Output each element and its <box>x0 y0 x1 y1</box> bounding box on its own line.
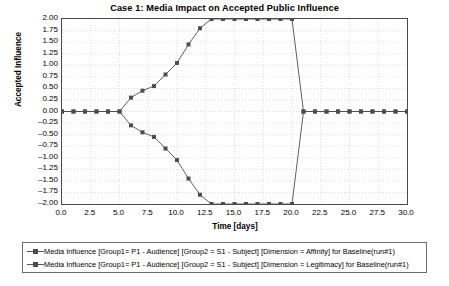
data-point-marker <box>313 110 317 114</box>
legend-item[interactable]: Media Influence [Group1= P1 - Audience] … <box>27 245 422 258</box>
y-axis-tick-label: –1.25 <box>4 164 58 172</box>
y-axis-tick-label: –1.50 <box>4 176 58 184</box>
data-point-marker <box>152 84 156 88</box>
y-axis-tick-label: –0.75 <box>4 141 58 149</box>
y-axis-tick-label: –1.00 <box>4 153 58 161</box>
data-point-marker <box>256 19 260 21</box>
y-axis-tick-label: 0.75 <box>4 72 58 80</box>
data-point-marker <box>187 42 191 46</box>
data-point-marker <box>118 110 122 114</box>
data-point-marker <box>279 19 283 21</box>
y-axis-ticks: 2.001.751.501.251.000.750.500.250.00–0.2… <box>0 18 58 205</box>
data-point-marker <box>233 202 237 204</box>
data-point-marker <box>279 202 283 204</box>
data-point-marker <box>210 19 214 21</box>
data-point-marker <box>175 61 179 65</box>
legend-item-label: Media Influence [Group1= P1 - Audience] … <box>44 258 409 271</box>
chart-legend: Media Influence [Group1= P1 - Audience] … <box>22 242 427 273</box>
data-point-marker <box>129 96 133 100</box>
data-point-marker <box>233 19 237 21</box>
data-point-marker <box>95 110 99 114</box>
data-point-marker <box>348 110 352 114</box>
data-point-marker <box>382 110 386 114</box>
data-point-marker <box>106 110 110 114</box>
data-point-marker <box>221 19 225 21</box>
data-point-marker <box>187 177 191 181</box>
data-point-marker <box>302 110 306 114</box>
data-point-marker <box>129 123 133 127</box>
data-point-marker <box>290 19 294 21</box>
data-point-marker <box>164 147 168 151</box>
data-point-marker <box>256 202 260 204</box>
y-axis-tick-label: 0.50 <box>4 83 58 91</box>
chart-figure: Case 1: Media Impact on Accepted Public … <box>0 0 449 286</box>
y-axis-tick-label: –0.25 <box>4 118 58 126</box>
data-point-marker <box>141 89 145 93</box>
data-point-marker <box>244 19 248 21</box>
y-axis-tick-label: –0.50 <box>4 130 58 138</box>
data-point-marker <box>141 130 145 134</box>
data-point-marker <box>152 135 156 139</box>
data-point-marker <box>394 110 398 114</box>
data-point-marker <box>290 202 294 204</box>
y-axis-tick-label: 1.75 <box>4 26 58 34</box>
legend-marker-icon <box>27 258 44 271</box>
data-point-marker <box>267 202 271 204</box>
y-axis-tick-label: –2.00 <box>4 199 58 207</box>
chart-title: Case 1: Media Impact on Accepted Public … <box>0 3 449 13</box>
legend-marker-icon <box>27 245 44 258</box>
y-axis-tick-label: 1.00 <box>4 60 58 68</box>
data-point-marker <box>198 26 202 30</box>
data-point-marker <box>221 202 225 204</box>
data-point-marker <box>371 110 375 114</box>
y-axis-tick-label: 2.00 <box>4 14 58 22</box>
y-axis-tick-label: 0.25 <box>4 95 58 103</box>
y-axis-tick-label: –1.75 <box>4 187 58 195</box>
data-point-marker <box>164 73 168 77</box>
legend-item-label: Media Influence [Group1= P1 - Audience] … <box>44 245 395 258</box>
data-point-marker <box>336 110 340 114</box>
legend-item[interactable]: Media Influence [Group1= P1 - Audience] … <box>27 258 422 271</box>
data-point-marker <box>175 158 179 162</box>
x-axis-tick-label: 30.0 <box>386 209 426 217</box>
x-axis-label: Time [days] <box>61 222 409 231</box>
data-point-marker <box>405 110 407 114</box>
y-axis-tick-label: 0.00 <box>4 107 58 115</box>
data-point-marker <box>72 110 76 114</box>
data-point-marker <box>198 193 202 197</box>
x-axis-ticks: 0.02.55.07.510.012.515.017.520.022.525.0… <box>61 209 408 221</box>
data-point-marker <box>83 110 87 114</box>
data-point-marker <box>325 110 329 114</box>
data-point-marker <box>210 202 214 204</box>
y-axis-tick-label: 1.25 <box>4 49 58 57</box>
plot-area <box>61 18 408 205</box>
data-point-marker <box>244 202 248 204</box>
plot-svg <box>62 19 407 204</box>
data-point-marker <box>359 110 363 114</box>
data-point-marker <box>267 19 271 21</box>
data-point-marker <box>62 110 64 114</box>
y-axis-tick-label: 1.50 <box>4 37 58 45</box>
